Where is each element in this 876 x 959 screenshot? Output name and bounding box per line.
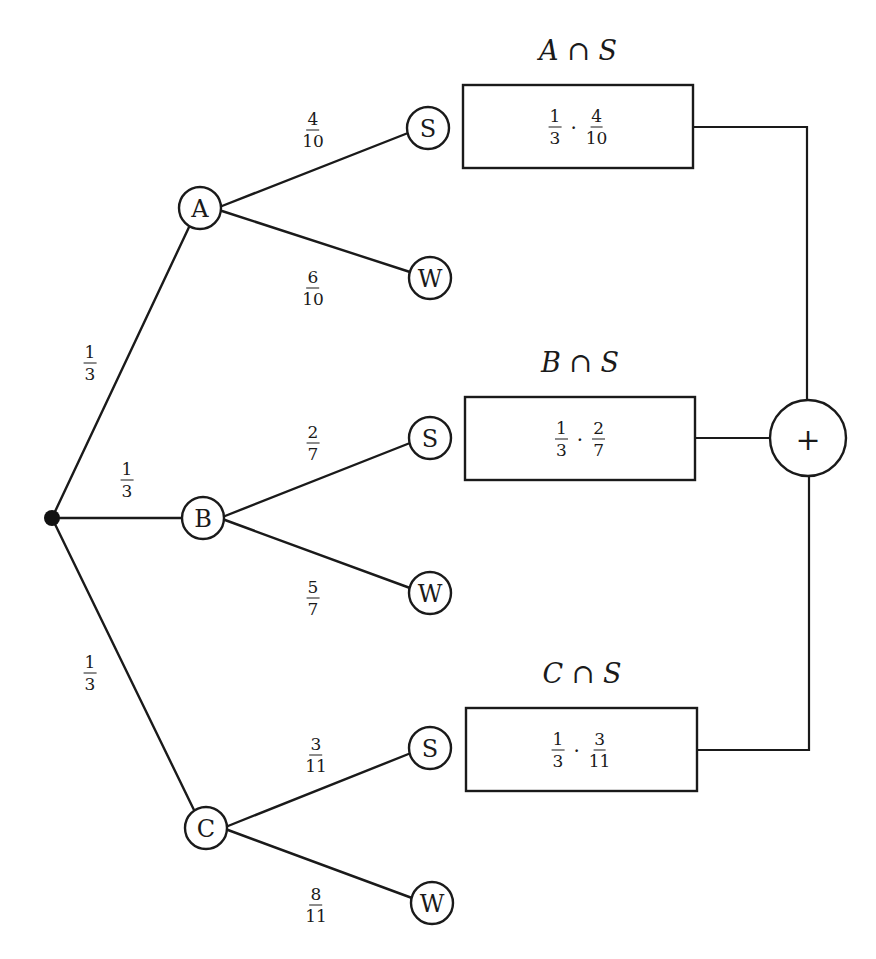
edge-prob-b-w: 5 7 [307,579,320,618]
node-a-s-label: S [420,115,436,143]
node-c-w-label: W [420,890,445,918]
factor-1: 1 3 [549,108,562,147]
edge-prob-root-b: 1 3 [121,461,134,500]
edge-prob-a-s: 4 10 [302,111,324,150]
result-title-a-s: A ∩ S [539,35,617,66]
result-title-b-s: B ∩ S [541,347,619,378]
node-b-w-label: W [418,580,443,608]
multiply-dot: · [570,117,576,137]
node-c-label: C [197,815,215,843]
edge-prob-b-s: 2 7 [307,424,320,463]
node-b-label: B [194,505,212,533]
factor-1: 1 3 [552,731,565,770]
result-product-c-s: 1 3 · 3 11 [552,731,611,770]
result-product-b-s: 1 3 · 2 7 [555,420,605,459]
plus-icon: + [795,422,820,457]
connector-a-sum [693,127,807,400]
node-a-w-label: W [418,265,443,293]
edge-prob-c-s: 3 11 [305,736,327,775]
edge-prob-root-a: 1 3 [84,344,97,383]
root-node [44,510,60,526]
multiply-dot: · [577,429,583,449]
edge-a-w [222,211,410,272]
factor-2: 2 7 [592,420,605,459]
edge-prob-a-w: 6 10 [302,269,324,308]
factor-2: 4 10 [586,108,608,147]
connector-c-sum [697,476,809,750]
factor-2: 3 11 [589,731,611,770]
result-title-c-s: C ∩ S [543,658,622,689]
node-c-s-label: S [422,735,438,763]
node-b-s-label: S [422,425,438,453]
multiply-dot: · [573,740,579,760]
edge-root-c [52,518,194,810]
result-product-a-s: 1 3 · 4 10 [549,108,608,147]
factor-1: 1 3 [555,420,568,459]
edge-prob-c-w: 8 11 [305,886,327,925]
probability-tree-diagram: A B C S W S W S W + 1 3 1 3 1 3 4 10 6 1… [0,0,876,959]
node-a-label: A [190,195,209,223]
edge-prob-root-c: 1 3 [84,654,97,693]
